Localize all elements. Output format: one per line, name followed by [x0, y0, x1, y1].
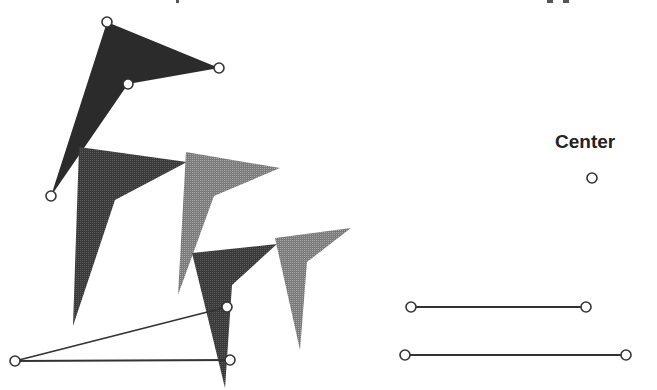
angle-ray-upper[interactable]	[15, 307, 227, 361]
shapes-layer	[51, 22, 351, 388]
arrowhead-5[interactable]	[275, 228, 351, 350]
angle-ray-lower[interactable]	[15, 360, 230, 361]
diagram-canvas	[0, 0, 657, 390]
cropped-text-fragment	[563, 0, 569, 3]
vertex-handle[interactable]	[102, 17, 112, 27]
endpoint-handle[interactable]	[10, 356, 20, 366]
cropped-text-fragment	[176, 0, 179, 3]
arrowhead-4[interactable]	[192, 244, 277, 388]
endpoint-handle[interactable]	[406, 302, 416, 312]
endpoint-handle[interactable]	[222, 302, 232, 312]
lines-layer	[15, 307, 626, 361]
arrowhead-2[interactable]	[73, 147, 187, 326]
vertex-handle[interactable]	[214, 63, 224, 73]
endpoint-handle[interactable]	[400, 350, 410, 360]
endpoint-handle[interactable]	[225, 355, 235, 365]
endpoint-handle[interactable]	[621, 350, 631, 360]
vertex-handle[interactable]	[123, 79, 133, 89]
center-point[interactable]	[587, 173, 597, 183]
center-label: Center	[555, 131, 615, 153]
cropped-text-fragment	[547, 0, 553, 3]
endpoint-handle[interactable]	[581, 302, 591, 312]
vertex-handle[interactable]	[46, 191, 56, 201]
